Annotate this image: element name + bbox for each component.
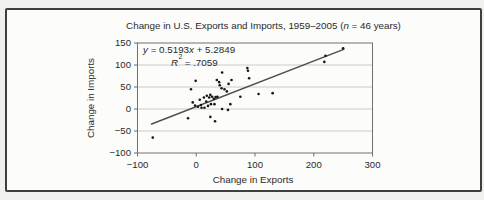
data-point <box>221 108 224 111</box>
x-tick-label: 300 <box>364 159 380 170</box>
data-point <box>190 88 193 91</box>
x-axis-title: Change in Exports <box>153 174 353 185</box>
data-point <box>247 69 250 72</box>
data-point <box>248 77 251 80</box>
data-point <box>221 71 224 74</box>
data-point <box>213 103 216 106</box>
data-point <box>227 83 230 86</box>
data-point <box>151 136 154 139</box>
y-tick-label: 150 <box>115 37 131 48</box>
data-point <box>216 95 219 98</box>
x-tick-label: 100 <box>247 159 263 170</box>
data-point <box>271 92 274 95</box>
data-point <box>200 106 203 109</box>
data-point <box>187 117 190 120</box>
data-point <box>246 67 249 70</box>
data-point <box>323 61 326 64</box>
r-squared-label: R2 = .7059 <box>171 54 218 68</box>
data-point <box>324 54 327 57</box>
y-tick-label: 100 <box>115 59 131 70</box>
data-point <box>198 98 201 101</box>
data-point <box>205 100 208 103</box>
data-point <box>207 105 210 108</box>
data-point <box>194 80 197 83</box>
data-point <box>191 101 194 104</box>
data-point <box>211 95 214 98</box>
data-point <box>218 81 221 84</box>
data-point <box>239 95 242 98</box>
data-point <box>342 47 345 50</box>
data-point <box>208 96 211 99</box>
data-point <box>257 93 260 96</box>
data-point <box>197 106 200 109</box>
data-point <box>220 87 223 90</box>
data-point <box>226 90 229 93</box>
data-point <box>229 103 232 106</box>
data-point <box>227 109 230 112</box>
data-point <box>206 95 209 98</box>
y-axis-title: Change in Imports <box>85 43 97 153</box>
data-point <box>218 84 221 87</box>
data-point <box>216 79 219 82</box>
chart-title-text: Change in U.S. Exports and Imports, 1959… <box>126 20 343 31</box>
x-tick-label: 0 <box>194 159 199 170</box>
data-point <box>194 104 197 107</box>
y-tick-label: −100 <box>109 147 131 158</box>
r-exponent: 2 <box>179 53 183 60</box>
y-tick-label: 50 <box>120 81 131 92</box>
data-point <box>210 103 213 106</box>
x-tick-label: −100 <box>127 159 149 170</box>
x-tick-label: 200 <box>306 159 322 170</box>
data-point <box>209 116 212 119</box>
y-tick-label: 0 <box>126 103 131 114</box>
chart-title: Change in U.S. Exports and Imports, 1959… <box>42 20 484 31</box>
data-point <box>214 120 217 123</box>
y-tick-label: −50 <box>115 125 131 136</box>
figure-background: −1000100200300150100500−50−100 Change in… <box>0 0 484 200</box>
data-point <box>203 96 206 99</box>
data-point <box>223 88 226 91</box>
data-point <box>230 79 233 82</box>
chart-title-tail: = 46 years) <box>349 20 401 31</box>
data-point <box>203 106 206 109</box>
r-variable: R <box>171 57 178 68</box>
r-squared-value: = .7059 <box>182 57 218 68</box>
data-point <box>200 104 203 107</box>
